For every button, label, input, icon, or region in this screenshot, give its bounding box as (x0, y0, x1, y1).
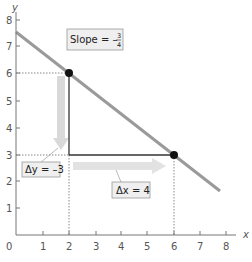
x-axis-label: x (242, 229, 249, 240)
y-tick-label: 4 (6, 123, 12, 134)
x-tick-label: 2 (66, 241, 72, 252)
x-ticks (43, 231, 226, 235)
x-tick-label: 4 (118, 241, 124, 252)
y-tick-label: 2 (6, 176, 12, 187)
y-tick-label: 5 (6, 96, 12, 107)
x-tick-label: 3 (93, 241, 99, 252)
y-ticks (16, 20, 20, 208)
point-6-3 (170, 151, 178, 159)
delta-y-label: Δy = –3 (25, 164, 64, 175)
y-tick-label: 3 (6, 150, 12, 161)
x-tick-label: 5 (144, 241, 150, 252)
delta-x-leader (116, 170, 121, 182)
x-tick-label: 7 (197, 241, 203, 252)
y-tick-label: 8 (6, 15, 12, 26)
slope-annotation: Slope = – 3 4 (67, 29, 123, 50)
x-tick-label: 1 (40, 241, 46, 252)
point-2-6 (65, 69, 73, 77)
slope-denominator: 4 (117, 41, 121, 49)
delta-x-arrow (73, 158, 166, 174)
origin-label: 0 (6, 241, 12, 252)
slope-chart: 8 7 6 5 4 3 2 1 y 0 1 2 3 4 5 6 7 8 x Sl… (0, 0, 252, 262)
delta-x-annotation: Δx = 4 (112, 170, 150, 198)
delta-y-arrow (53, 76, 69, 150)
slope-prefix: Slope = – (70, 34, 117, 45)
y-tick-label: 6 (6, 68, 12, 79)
x-tick-label: 8 (223, 241, 229, 252)
delta-x-label: Δx = 4 (116, 185, 150, 196)
y-tick-label: 7 (6, 41, 12, 52)
slope-numerator: 3 (117, 32, 121, 40)
y-axis-label: y (11, 2, 19, 13)
x-tick-label: 6 (171, 241, 177, 252)
y-tick-label: 1 (6, 203, 12, 214)
delta-y-annotation: Δy = –3 (22, 148, 64, 177)
